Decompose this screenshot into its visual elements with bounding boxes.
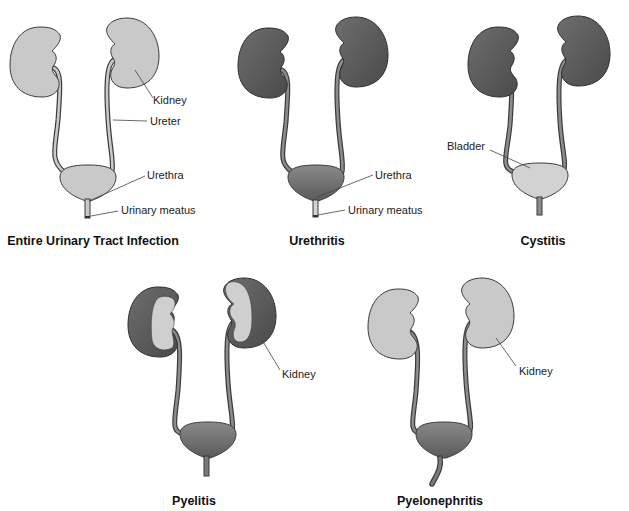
bladder [416, 422, 472, 458]
left-kidney [468, 27, 518, 97]
title-pyelitis: Pyelitis [172, 494, 216, 508]
bladder [60, 165, 116, 201]
panel-pyelonephritis [368, 278, 516, 484]
title-cystitis: Cystitis [520, 234, 565, 248]
panel-cystitis [468, 16, 610, 215]
kidney-leader-line [496, 338, 516, 366]
title-pyelonephritis: Pyelonephritis [397, 494, 483, 508]
left-kidney [368, 289, 418, 359]
panel-pyelitis [128, 278, 280, 476]
label-bladder: Bladder [447, 140, 485, 152]
meatus-leader-line [318, 210, 345, 215]
label-urethra: Urethra [375, 169, 412, 181]
label-kidney: Kidney [519, 365, 553, 377]
urinary-meatus [313, 215, 318, 217]
bladder [180, 422, 236, 458]
label-urinary-meatus: Urinary meatus [348, 204, 423, 216]
meatus-leader-line [91, 211, 118, 216]
left-kidney [238, 28, 288, 98]
title-urethritis: Urethritis [289, 234, 345, 248]
label-urethra: Urethra [147, 169, 184, 181]
urethra [313, 200, 318, 217]
bladder-leader-line [490, 150, 530, 168]
right-kidney [336, 17, 388, 87]
urinary-tract-diagram [0, 0, 629, 511]
title-entire-urinary-tract-infection: Entire Urinary Tract Infection [7, 234, 179, 248]
panel-entire-urinary-tract-infection [10, 18, 159, 218]
label-kidney: Kidney [153, 94, 187, 106]
bladder [288, 165, 344, 201]
left-renal-pelvis [151, 296, 175, 350]
bladder [512, 163, 568, 199]
urethra [204, 456, 209, 476]
label-kidney: Kidney [282, 368, 316, 380]
label-ureter: Ureter [150, 115, 181, 127]
urinary-meatus [85, 216, 90, 218]
right-kidney [558, 16, 610, 86]
right-kidney [107, 18, 159, 88]
label-urinary-meatus: Urinary meatus [121, 204, 196, 216]
kidney-leader-line [262, 340, 280, 370]
left-kidney [10, 27, 60, 97]
ureter-leader-line [113, 120, 147, 121]
urethra [537, 197, 542, 215]
panel-urethritis [238, 17, 388, 217]
urethra [85, 199, 90, 218]
right-kidney [462, 278, 514, 348]
